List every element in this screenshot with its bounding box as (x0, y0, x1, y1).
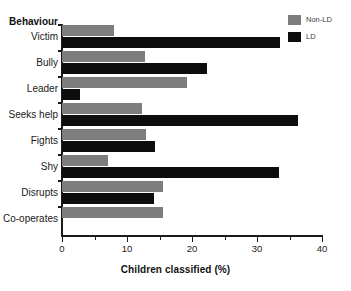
x-tick-minor (160, 236, 161, 240)
bar-ld-disrupts (62, 193, 154, 204)
x-tick-major (62, 236, 63, 242)
x-tick-minor (95, 236, 96, 240)
bar-non-ld-disrupts (62, 181, 163, 192)
bar-ld-shy (62, 167, 279, 178)
x-tick-label: 20 (187, 243, 198, 254)
x-tick-major (257, 236, 258, 242)
bar-ld-seeks-help (62, 115, 298, 126)
category-label-shy: Shy (0, 161, 58, 172)
bar-group (62, 207, 322, 233)
bar-group (62, 25, 322, 51)
category-label-seeks-help: Seeks help (0, 109, 58, 120)
category-label-leader: Leader (0, 83, 58, 94)
legend-label-ld: LD (306, 32, 316, 41)
plot-area (62, 24, 322, 235)
x-tick-label: 30 (252, 243, 263, 254)
bar-non-ld-bully (62, 51, 145, 62)
bar-ld-leader (62, 89, 80, 100)
bar-ld-bully (62, 63, 207, 74)
bar-group (62, 77, 322, 103)
category-label-bully: Bully (0, 57, 58, 68)
x-tick-minor (290, 236, 291, 240)
bar-group (62, 181, 322, 207)
x-tick-label: 40 (317, 243, 328, 254)
category-label-victim: Victim (0, 31, 58, 42)
bar-non-ld-victim (62, 25, 114, 36)
category-label-co-operates: Co-operates (0, 213, 58, 224)
x-tick-major (127, 236, 128, 242)
bar-group (62, 103, 322, 129)
bar-group (62, 129, 322, 155)
category-label-fights: Fights (0, 135, 58, 146)
bar-non-ld-seeks-help (62, 103, 142, 114)
bar-chart: Behaviour VictimBullyLeaderSeeks helpFig… (0, 0, 351, 291)
bar-group (62, 155, 322, 181)
category-label-disrupts: Disrupts (0, 187, 58, 198)
x-tick-major (192, 236, 193, 242)
bar-non-ld-co-operates (62, 207, 163, 218)
x-tick-minor (225, 236, 226, 240)
x-tick-major (322, 236, 323, 242)
bar-ld-victim (62, 37, 280, 48)
x-tick-label: 0 (59, 243, 64, 254)
legend-label-non-ld: Non-LD (306, 15, 332, 24)
bar-ld-fights (62, 141, 155, 152)
bar-non-ld-leader (62, 77, 187, 88)
bar-non-ld-fights (62, 129, 146, 140)
x-tick-label: 10 (122, 243, 133, 254)
legend-swatch-ld (288, 32, 301, 42)
legend-swatch-non-ld (288, 15, 301, 25)
x-axis-title: Children classified (%) (0, 264, 351, 275)
y-axis-header: Behaviour (4, 16, 58, 27)
bar-non-ld-shy (62, 155, 108, 166)
bar-group (62, 51, 322, 77)
